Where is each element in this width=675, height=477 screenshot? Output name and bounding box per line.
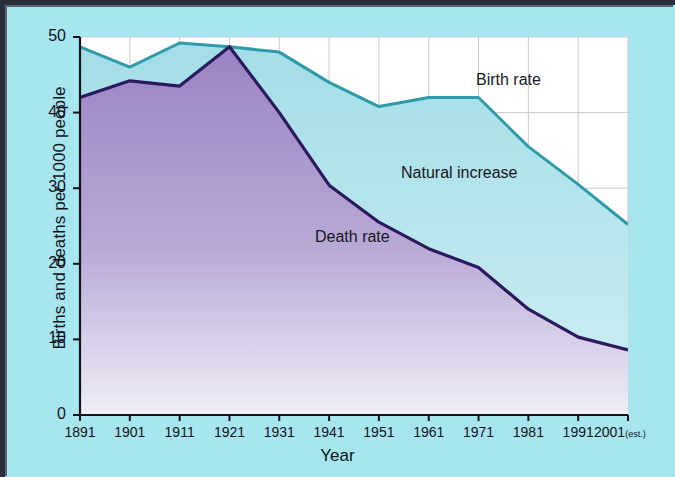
x-tick-label: 2001(est.) — [594, 424, 670, 440]
y-tick-label: 0 — [26, 405, 66, 423]
y-tick-label: 50 — [26, 27, 66, 45]
y-tick-label: 40 — [26, 103, 66, 121]
x-tick-label-suffix: (est.) — [625, 429, 646, 439]
series-annotation-death-rate: Death rate — [315, 228, 390, 246]
figure-container: Births and deaths per 1000 people Year 0… — [0, 0, 675, 477]
y-tick-label: 10 — [26, 329, 66, 347]
series-annotation-birth-rate: Birth rate — [476, 71, 541, 89]
x-axis-title: Year — [0, 446, 675, 466]
y-tick-label: 20 — [26, 254, 66, 272]
y-tick-label: 30 — [26, 178, 66, 196]
series-annotation-natural-increase: Natural increase — [401, 164, 518, 182]
